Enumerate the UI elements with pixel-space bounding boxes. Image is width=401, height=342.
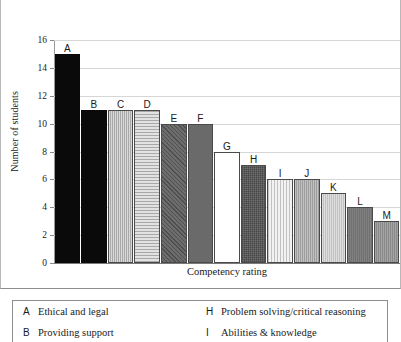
legend-key-h: H — [206, 306, 221, 317]
legend-key-a: A — [23, 306, 38, 317]
y-axis-tick-mark — [50, 40, 54, 41]
gridline — [54, 40, 400, 41]
legend-item-h: HProblem solving/critical reasoning — [198, 306, 387, 317]
legend-key-i: I — [206, 327, 221, 338]
legend-item-i: IAbilities & knowledge — [198, 327, 387, 338]
y-axis-tick-mark — [50, 179, 54, 180]
gridline — [54, 68, 400, 69]
y-axis-tick-label: 0 — [42, 258, 47, 268]
legend-text-h: Problem solving/critical reasoning — [221, 306, 366, 317]
gridline — [54, 96, 400, 97]
bar-label-g: G — [223, 141, 231, 152]
bar-label-l: L — [357, 196, 363, 207]
x-axis-title: Competency rating — [54, 266, 400, 277]
bar-b[interactable]: B — [81, 110, 107, 263]
bar-label-d: D — [144, 99, 151, 110]
bar-a[interactable]: A — [55, 54, 81, 263]
bar-label-j: J — [304, 168, 309, 179]
bar-label-m: M — [383, 210, 391, 221]
bar-label-a: A — [64, 43, 71, 54]
bar-i[interactable]: I — [267, 179, 293, 263]
legend-rows: AEthical and legalHProblem solving/criti… — [13, 301, 387, 342]
chart-figure: Number of students 0246810121416 ABCDEFG… — [0, 0, 401, 289]
legend-row: AEthical and legalHProblem solving/criti… — [13, 301, 387, 322]
legend-text-i: Abilities & knowledge — [221, 327, 317, 338]
bar-label-c: C — [117, 99, 124, 110]
legend-text-b: Providing support — [38, 327, 114, 338]
legend-text-a: Ethical and legal — [38, 306, 109, 317]
bar-h[interactable]: H — [241, 165, 267, 263]
legend-item-b: BProviding support — [13, 327, 198, 338]
bar-d[interactable]: D — [134, 110, 160, 263]
bar-c[interactable]: C — [108, 110, 134, 263]
legend-row: BProviding supportIAbilities & knowledge — [13, 322, 387, 342]
y-axis-tick-mark — [50, 96, 54, 97]
y-axis-tick-label: 8 — [42, 147, 47, 157]
bar-label-b: B — [91, 99, 98, 110]
y-axis-tick-label: 16 — [38, 35, 48, 45]
legend-item-a: AEthical and legal — [13, 306, 198, 317]
bar-m[interactable]: M — [374, 221, 400, 263]
y-axis-title-text: Number of students — [9, 91, 20, 172]
y-axis-tick-label: 10 — [38, 119, 48, 129]
bar-label-i: I — [279, 168, 282, 179]
y-axis-tick-label: 2 — [42, 230, 47, 240]
bar-label-h: H — [250, 154, 257, 165]
legend-box: AEthical and legalHProblem solving/criti… — [12, 300, 388, 342]
bar-label-k: K — [330, 182, 337, 193]
bar-j[interactable]: J — [294, 179, 320, 263]
y-axis-tick-mark — [50, 207, 54, 208]
plot-area: 0246810121416 ABCDEFGHIJKLM — [54, 40, 400, 263]
bar-e[interactable]: E — [161, 124, 187, 263]
bar-label-e: E — [170, 113, 177, 124]
gridline — [54, 263, 400, 264]
y-axis-tick-mark — [50, 152, 54, 153]
legend-key-b: B — [23, 327, 38, 338]
y-axis-tick-mark — [50, 68, 54, 69]
y-axis-tick-label: 6 — [42, 174, 47, 184]
bar-k[interactable]: K — [321, 193, 347, 263]
y-axis-tick-label: 12 — [38, 91, 48, 101]
y-axis-title: Number of students — [3, 0, 25, 262]
y-axis-tick-mark — [50, 263, 54, 264]
y-axis-tick-mark — [50, 235, 54, 236]
bar-l[interactable]: L — [347, 207, 373, 263]
bar-f[interactable]: F — [188, 124, 214, 263]
y-axis-tick-label: 4 — [42, 202, 47, 212]
y-axis-tick-mark — [50, 124, 54, 125]
bar-g[interactable]: G — [214, 152, 240, 264]
y-axis-tick-label: 14 — [38, 63, 48, 73]
bar-label-f: F — [197, 113, 203, 124]
